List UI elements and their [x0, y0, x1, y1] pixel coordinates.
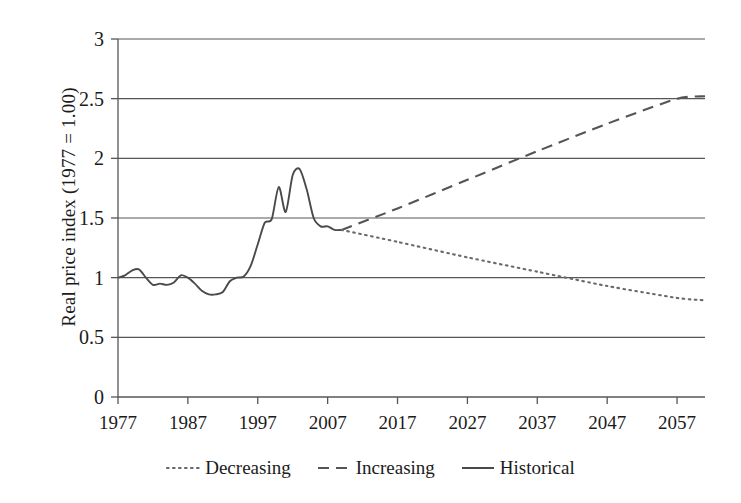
- data-series: [118, 96, 705, 300]
- legend-item-historical[interactable]: Historical: [461, 458, 575, 477]
- plot-area: [0, 0, 741, 503]
- series-line-decreasing: [342, 230, 705, 300]
- y-axis-ticks: [111, 39, 118, 397]
- chart-figure: Real price index (1977 = 1.00) 00.511.52…: [0, 0, 741, 503]
- legend-swatch-solid-icon: [461, 462, 495, 474]
- x-axis-ticks: [118, 397, 677, 404]
- legend-item-decreasing[interactable]: Decreasing: [166, 458, 290, 477]
- series-line-increasing: [342, 96, 705, 230]
- legend-item-increasing[interactable]: Increasing: [317, 458, 435, 477]
- legend-label: Decreasing: [205, 458, 290, 477]
- series-line-historical: [118, 168, 342, 294]
- legend-swatch-dotted-icon: [166, 462, 200, 474]
- legend-swatch-dashed-icon: [317, 462, 351, 474]
- chart-legend: DecreasingIncreasingHistorical: [0, 458, 741, 477]
- legend-label: Increasing: [356, 458, 435, 477]
- legend-label: Historical: [500, 458, 575, 477]
